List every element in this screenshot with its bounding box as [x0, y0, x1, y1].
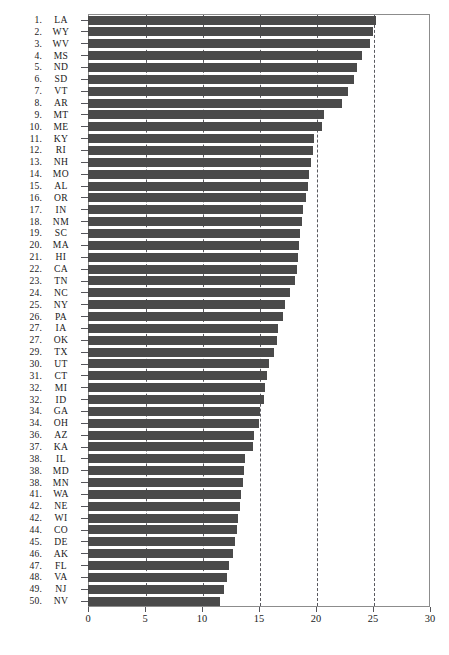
category-label: AL — [46, 180, 76, 192]
y-axis-tick-mark — [81, 530, 88, 531]
y-axis-tick-mark — [81, 221, 88, 222]
y-axis-tick-mark — [81, 577, 88, 578]
category-label: DE — [46, 536, 76, 548]
bar — [88, 300, 285, 309]
bar-row: 38.MD — [0, 465, 449, 477]
bar — [88, 134, 314, 143]
bar — [88, 170, 309, 179]
bar — [88, 359, 269, 368]
bar — [88, 241, 299, 250]
bar — [88, 454, 245, 463]
rank-label: 1. — [14, 14, 42, 26]
category-label: SC — [46, 227, 76, 239]
rank-label: 4. — [14, 50, 42, 62]
bar-row: 18.NM — [0, 216, 449, 228]
bar-row: 10.ME — [0, 121, 449, 133]
category-label: VT — [46, 85, 76, 97]
rank-label: 31. — [14, 370, 42, 382]
rank-label: 50. — [14, 595, 42, 607]
y-axis-tick-mark — [81, 197, 88, 198]
y-axis-tick-mark — [81, 281, 88, 282]
category-label: MO — [46, 168, 76, 180]
category-label: CA — [46, 263, 76, 275]
category-label: MA — [46, 239, 76, 251]
rank-label: 10. — [14, 121, 42, 133]
y-axis-tick-mark — [81, 482, 88, 483]
bar — [88, 525, 237, 534]
y-axis-tick-mark — [81, 435, 88, 436]
rank-label: 21. — [14, 251, 42, 263]
category-label: IL — [46, 453, 76, 465]
bar-row: 16.OR — [0, 192, 449, 204]
category-label: HI — [46, 251, 76, 263]
bar-row: 41.WA — [0, 488, 449, 500]
category-label: AR — [46, 97, 76, 109]
y-axis-tick-mark — [81, 233, 88, 234]
y-axis-tick-mark — [81, 565, 88, 566]
rank-label: 36. — [14, 429, 42, 441]
bar-row: 44.CO — [0, 524, 449, 536]
y-axis-tick-mark — [81, 150, 88, 151]
bar — [88, 122, 322, 131]
bar-row: 50.NV — [0, 595, 449, 607]
y-axis-tick-mark — [81, 423, 88, 424]
bar-row: 4.MS — [0, 50, 449, 62]
y-axis-tick-mark — [81, 364, 88, 365]
y-axis-tick-mark — [81, 340, 88, 341]
x-axis-tick-label: 0 — [68, 612, 108, 626]
bar — [88, 597, 220, 606]
bar — [88, 146, 313, 155]
bar-row: 23.TN — [0, 275, 449, 287]
rank-label: 8. — [14, 97, 42, 109]
bar — [88, 193, 306, 202]
category-label: KY — [46, 133, 76, 145]
category-label: RI — [46, 144, 76, 156]
bar-row: 34.GA — [0, 405, 449, 417]
x-axis-tick-label: 30 — [410, 612, 449, 626]
rank-label: 25. — [14, 299, 42, 311]
rank-label: 14. — [14, 168, 42, 180]
bar — [88, 585, 224, 594]
bar-row: 19.SC — [0, 227, 449, 239]
rank-label: 17. — [14, 204, 42, 216]
category-label: NH — [46, 156, 76, 168]
bar-row: 24.NC — [0, 287, 449, 299]
y-axis-tick-mark — [81, 458, 88, 459]
y-axis-tick-mark — [81, 553, 88, 554]
y-axis-tick-mark — [81, 31, 88, 32]
bar — [88, 312, 283, 321]
rank-label: 27. — [14, 322, 42, 334]
y-axis-tick-mark — [81, 67, 88, 68]
bar — [88, 514, 238, 523]
rank-label: 22. — [14, 263, 42, 275]
category-label: IN — [46, 204, 76, 216]
y-axis-tick-mark — [81, 162, 88, 163]
category-label: CO — [46, 524, 76, 536]
rank-label: 12. — [14, 144, 42, 156]
rank-label: 38. — [14, 453, 42, 465]
bar-row: 42.WI — [0, 512, 449, 524]
y-axis-tick-mark — [81, 174, 88, 175]
bar-row: 47.FL — [0, 560, 449, 572]
bar-row: 49.NJ — [0, 583, 449, 595]
y-axis-tick-mark — [81, 352, 88, 353]
x-axis-tick-label: 10 — [182, 612, 222, 626]
rank-label: 3. — [14, 38, 42, 50]
bar-row: 1.LA — [0, 14, 449, 26]
bar — [88, 75, 354, 84]
category-label: NY — [46, 299, 76, 311]
category-label: MT — [46, 109, 76, 121]
rank-label: 37. — [14, 441, 42, 453]
category-label: NM — [46, 216, 76, 228]
rank-label: 7. — [14, 85, 42, 97]
bar-row: 22.CA — [0, 263, 449, 275]
bar — [88, 205, 303, 214]
category-label: NJ — [46, 583, 76, 595]
rank-label: 6. — [14, 73, 42, 85]
bar-row: 13.NH — [0, 156, 449, 168]
rank-label: 11. — [14, 133, 42, 145]
category-label: WA — [46, 488, 76, 500]
bar-chart: 1.LA2.WY3.WV4.MS5.ND6.SD7.VT8.AR9.MT10.M… — [0, 0, 449, 655]
y-axis-tick-mark — [81, 506, 88, 507]
rank-label: 20. — [14, 239, 42, 251]
